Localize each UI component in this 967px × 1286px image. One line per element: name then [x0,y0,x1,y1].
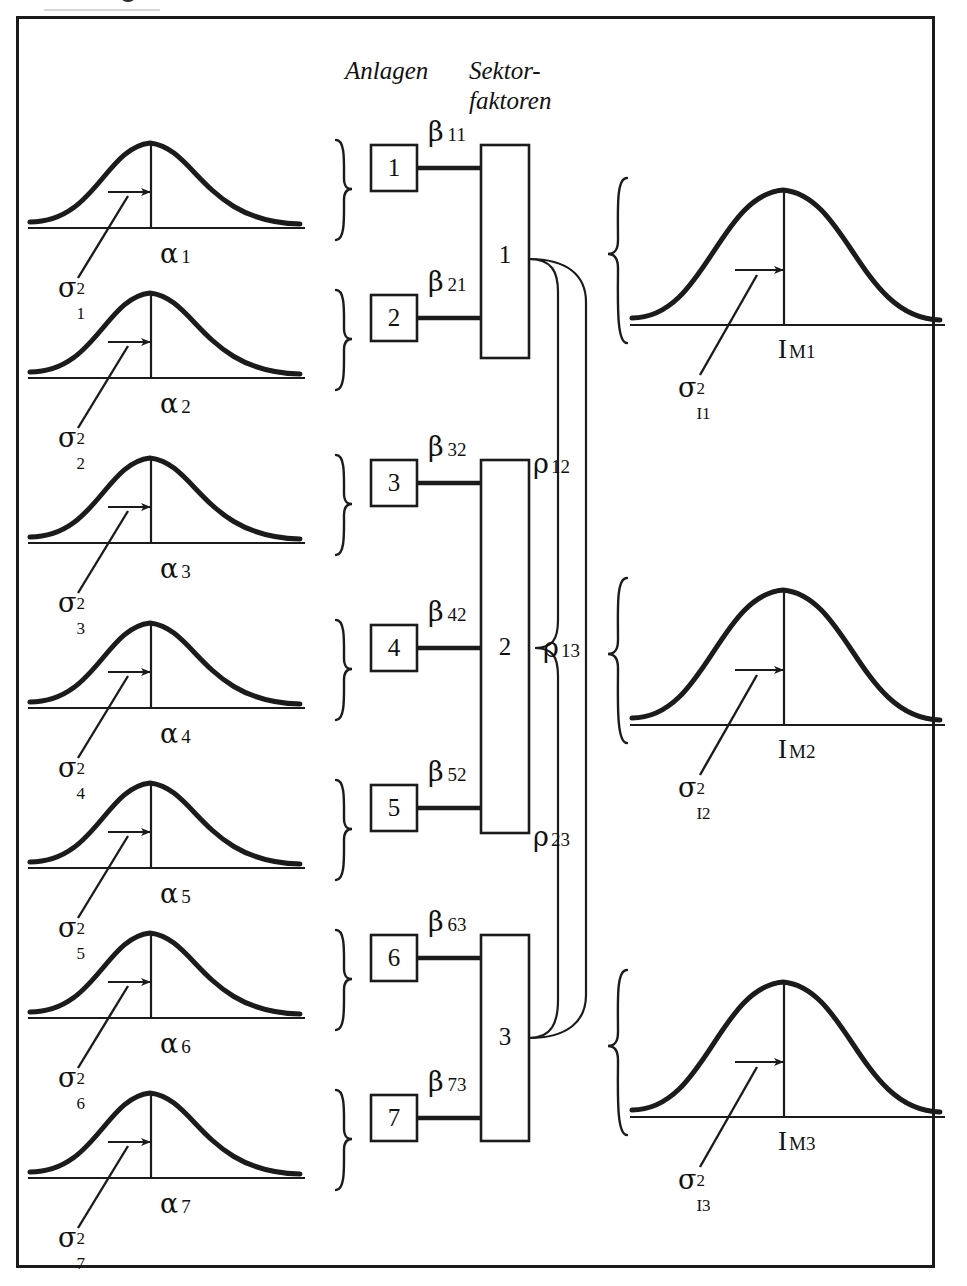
beta-glyph: β [428,756,444,787]
alpha-label-6: α6 [160,1030,191,1057]
header-sektorfaktoren-line1: Sektor- [469,58,541,83]
alpha-glyph: α [160,553,178,584]
sigma-subscript: I2 [696,804,710,824]
beta-subscript: 21 [448,274,467,295]
sigma-superscript: 2 [76,594,85,614]
index-glyph: I [778,1126,787,1156]
plant-box-4[interactable]: 4 [371,625,417,671]
index-mean-label-1: IM1 [778,336,815,363]
beta-glyph: β [428,1066,444,1097]
beta-label-42: β42 [428,598,467,625]
beta-subscript: 73 [448,1074,467,1095]
alpha-glyph: α [160,1028,178,1059]
alpha-label-7: α7 [160,1190,191,1217]
index-mean-label-2: IM2 [778,736,815,763]
plant-box-1[interactable]: 1 [371,145,417,191]
alpha-subscript: 1 [181,246,191,267]
alpha-subscript: 5 [181,886,191,907]
sigma-superscript: 2 [76,279,85,299]
beta-subscript: 63 [448,914,467,935]
beta-subscript: 42 [448,604,467,625]
sigma-superscript: 2 [76,1069,85,1089]
sigma-subscript: 5 [76,944,85,964]
sigma-label-2: σ22 [58,422,86,453]
alpha-glyph: α [160,238,178,269]
index-sigma-label-3: σ2I3 [678,1164,706,1195]
sigma-subscript: I3 [696,1196,710,1216]
index-subscript: M2 [789,741,815,762]
sigma-glyph: σ [58,1222,76,1253]
sigma-label-3: σ23 [58,587,86,618]
rho-subscript: 12 [551,456,570,477]
sigma-superscript: 2 [76,1229,85,1249]
beta-label-73: β73 [428,1068,467,1095]
diagram-frame [16,16,935,1268]
beta-label-11: β11 [428,118,466,145]
header-sektorfaktoren-line2: faktoren [469,88,551,113]
rho-glyph: ρ [533,821,549,852]
sigma-glyph: σ [678,1164,696,1195]
sigma-label-4: σ24 [58,752,86,783]
sigma-glyph: σ [58,272,76,303]
beta-subscript: 11 [448,124,466,145]
sigma-label-7: σ27 [58,1222,86,1253]
beta-glyph: β [428,906,444,937]
sigma-subscript: I1 [696,404,710,424]
beta-glyph: β [428,116,444,147]
rho-glyph: ρ [543,632,559,663]
sigma-subscript: 1 [76,304,85,324]
sigma-subscript: 4 [76,784,85,804]
alpha-subscript: 6 [181,1036,191,1057]
sigma-glyph: σ [678,372,696,403]
beta-label-52: β52 [428,758,467,785]
sigma-superscript: 2 [696,1171,705,1191]
index-mean-label-3: IM3 [778,1128,815,1155]
sigma-glyph: σ [58,422,76,453]
index-subscript: M3 [789,1133,815,1154]
sigma-subscript: 6 [76,1094,85,1114]
sigma-subscript: 3 [76,619,85,639]
sigma-glyph: σ [678,772,696,803]
rho-glyph: ρ [533,448,549,479]
diagram-canvas: Anlagen Sektor- faktoren 1 2 3 4 5 6 7 1… [0,0,967,1286]
index-glyph: I [778,734,787,764]
alpha-label-4: α4 [160,720,191,747]
sector-box-label-1[interactable]: 1 [481,238,529,272]
alpha-glyph: α [160,878,178,909]
sigma-glyph: σ [58,1062,76,1093]
beta-label-63: β63 [428,908,467,935]
beta-subscript: 32 [448,439,467,460]
sigma-glyph: σ [58,912,76,943]
sector-box-label-2[interactable]: 2 [481,630,529,664]
top-artifact-dot [122,0,134,2]
plant-box-6[interactable]: 6 [371,935,417,981]
alpha-label-5: α5 [160,880,191,907]
sigma-superscript: 2 [76,759,85,779]
plant-box-7[interactable]: 7 [371,1095,417,1141]
sigma-superscript: 2 [76,429,85,449]
sigma-label-5: σ25 [58,912,86,943]
sector-box-label-3[interactable]: 3 [481,1020,529,1054]
sigma-superscript: 2 [76,919,85,939]
alpha-label-1: α1 [160,240,191,267]
alpha-subscript: 7 [181,1196,191,1217]
sigma-label-1: σ21 [58,272,86,303]
beta-glyph: β [428,596,444,627]
sigma-superscript: 2 [696,379,705,399]
beta-glyph: β [428,431,444,462]
header-anlagen: Anlagen [345,58,428,83]
sigma-superscript: 2 [696,779,705,799]
index-subscript: M1 [789,341,815,362]
alpha-glyph: α [160,1188,178,1219]
index-sigma-label-1: σ2I1 [678,372,706,403]
rho-subscript: 13 [561,640,580,661]
plant-box-3[interactable]: 3 [371,460,417,506]
sigma-subscript: 7 [76,1254,85,1274]
sigma-glyph: σ [58,752,76,783]
plant-box-5[interactable]: 5 [371,785,417,831]
sigma-subscript: 2 [76,454,85,474]
rho-label-13: ρ13 [543,634,580,661]
plant-box-2[interactable]: 2 [371,295,417,341]
rho-label-12: ρ12 [533,450,570,477]
alpha-subscript: 3 [181,561,191,582]
